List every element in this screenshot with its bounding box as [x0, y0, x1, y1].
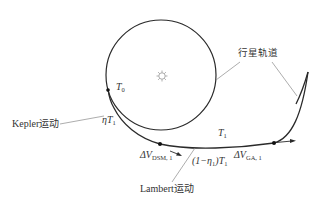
- kepler-leader: [60, 116, 104, 124]
- lambert-motion-label: Lambert运动: [140, 184, 194, 194]
- departure-orbit-circle: [106, 20, 216, 130]
- dv-ga-label: ΔVGA, 1: [234, 150, 262, 162]
- kepler-motion-label: Kepler运动: [12, 119, 59, 129]
- target-planet-orbit-arc: [296, 72, 308, 104]
- orbit-diagram: [0, 0, 322, 201]
- eta-t1-label: ηT1: [102, 115, 116, 127]
- t1-label: T1: [218, 128, 227, 140]
- planet-orbit-label: 行星轨道: [238, 48, 278, 58]
- planet-orbit-leader-2: [272, 62, 297, 96]
- planet-orbit-leader-1: [216, 62, 240, 80]
- transfer-trajectory-arc: [108, 72, 308, 148]
- dv-dsm-label: ΔVDSM, 1: [140, 150, 173, 162]
- t0-point: [106, 88, 110, 92]
- dsm-point: [158, 142, 162, 146]
- one-minus-eta-t1-label: (1−η1)T1: [192, 156, 227, 168]
- t0-label: T0: [116, 82, 125, 94]
- ga-point: [272, 141, 276, 145]
- sun-icon: [157, 71, 168, 82]
